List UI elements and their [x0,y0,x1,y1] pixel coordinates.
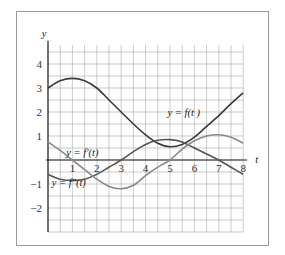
label-f: y = f(t ) [167,107,201,119]
x-tick-label: 3 [118,162,124,174]
label-f-prime: y = f′(t) [65,147,99,159]
y-tick-label: 4 [37,58,43,70]
y-tick-label: 1 [37,130,43,142]
x-tick-label: 2 [94,162,100,174]
x-tick-label: 1 [70,162,76,174]
x-tick-label: 4 [143,162,149,174]
x-tick-label: 7 [216,162,222,174]
x-tick-label: 8 [240,162,246,174]
grid [48,45,243,232]
y-tick-label: 3 [37,82,43,94]
y-axis-label: y [41,28,47,39]
axes: yt [41,28,260,232]
x-tick-label: 6 [192,162,198,174]
x-axis-label: t [255,154,259,165]
y-tick-label: 2 [37,106,43,118]
chart: yt 123456784321−1−2 y = f(t )y = f′(t)y … [0,0,285,255]
label-f-double-prime: y = f″(t) [51,177,87,189]
y-tick-label: −1 [30,178,42,190]
x-tick-label: 5 [167,162,173,174]
y-tick-label: −2 [30,202,42,214]
